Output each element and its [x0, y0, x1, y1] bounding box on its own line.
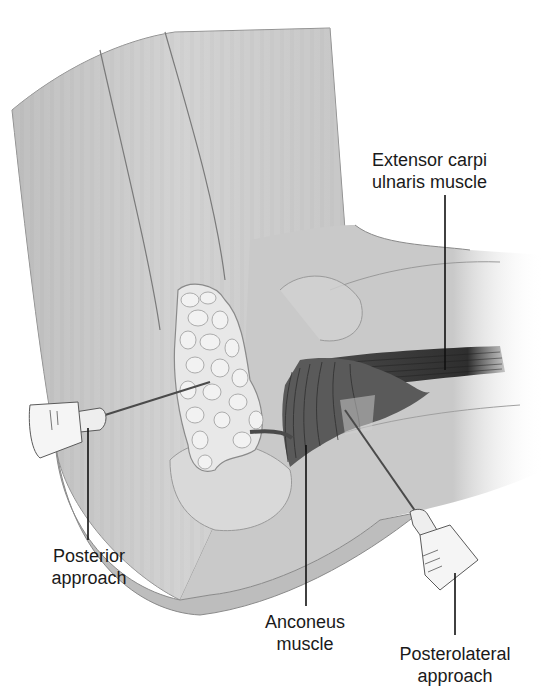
label-line: approach	[385, 665, 525, 687]
label-line: Extensor carpi	[372, 149, 487, 171]
label-line: muscle	[250, 633, 360, 655]
label-posterolateral-approach: Posterolateral approach	[385, 643, 525, 687]
label-line: Posterior	[34, 545, 144, 567]
label-line: approach	[34, 567, 144, 589]
label-anconeus-muscle: Anconeus muscle	[250, 611, 360, 655]
label-line: ulnaris muscle	[372, 171, 487, 193]
elbow-aspiration-illustration: Extensor carpi ulnaris muscle Posterior …	[0, 0, 544, 698]
label-extensor-carpi-ulnaris: Extensor carpi ulnaris muscle	[372, 149, 487, 193]
label-line: Anconeus	[250, 611, 360, 633]
anatomy-drawing	[0, 0, 544, 698]
label-line: Posterolateral	[385, 643, 525, 665]
label-posterior-approach: Posterior approach	[34, 545, 144, 589]
